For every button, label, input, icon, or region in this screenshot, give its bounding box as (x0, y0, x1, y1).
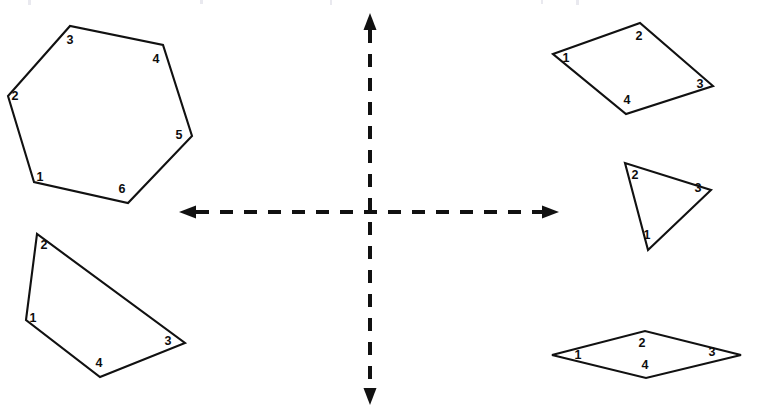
triangle-middle-right-vertex-label-3: 3 (695, 181, 702, 195)
diagram-canvas: 123456123412341231234 (0, 0, 758, 417)
scan-speck (541, 0, 543, 4)
scan-speck (200, 0, 203, 4)
quadrilateral-lower-left-vertex-label-3: 3 (165, 334, 172, 348)
parallelogram-upper-right-vertex-label-4: 4 (624, 93, 631, 107)
scan-speck (576, 0, 579, 5)
shapes-layer (8, 23, 741, 378)
triangle-middle-right-vertex-label-1: 1 (644, 228, 651, 242)
quadrilateral-lower-left-vertex-label-4: 4 (96, 356, 103, 370)
scan-specks (28, 0, 579, 5)
rhombus-lower-right-vertex-label-4: 4 (642, 358, 649, 372)
rhombus-lower-right-vertex-label-1: 1 (575, 348, 582, 362)
quadrilateral-lower-left (26, 234, 185, 377)
quadrilateral-lower-left-vertex-label-2: 2 (41, 238, 48, 252)
parallelogram-upper-right-vertex-label-1: 1 (563, 51, 570, 65)
rhombus-lower-right-vertex-label-3: 3 (709, 345, 716, 359)
hexagon-upper-left-vertex-label-4: 4 (153, 52, 160, 66)
triangle-middle-right-vertex-label-2: 2 (632, 168, 639, 182)
scan-speck (28, 0, 31, 5)
y-axis-down-arrowhead (364, 388, 377, 405)
quadrilateral-lower-left-vertex-label-1: 1 (30, 311, 37, 325)
scan-speck (330, 0, 332, 5)
parallelogram-upper-right-vertex-label-2: 2 (636, 29, 643, 43)
x-axis-right-arrowhead (542, 206, 559, 219)
x-axis-left-arrowhead (179, 206, 196, 219)
dashed-coordinate-axes (179, 13, 559, 405)
hexagon-upper-left-vertex-label-2: 2 (12, 89, 19, 103)
polygon-diagram-svg: 123456123412341231234 (0, 0, 758, 417)
rhombus-lower-right-vertex-label-2: 2 (639, 336, 646, 350)
y-axis-up-arrowhead (364, 13, 377, 30)
hexagon-upper-left-vertex-label-6: 6 (119, 182, 126, 196)
parallelogram-upper-right-vertex-label-3: 3 (697, 77, 704, 91)
parallelogram-upper-right (553, 23, 713, 114)
hexagon-upper-left-vertex-label-5: 5 (176, 128, 183, 142)
hexagon-upper-left-vertex-label-1: 1 (37, 170, 44, 184)
hexagon-upper-left-vertex-label-3: 3 (67, 33, 74, 47)
